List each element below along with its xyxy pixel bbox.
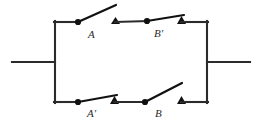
circuit-schematic-svg: A B' A' [0, 0, 264, 124]
switch-B-prime-input-wire [115, 21, 148, 22]
switch-B-prime-lever[interactable] [147, 15, 184, 21]
switch-B-lever[interactable] [145, 83, 182, 102]
switch-A-prime-lever[interactable] [78, 95, 117, 102]
bottom-branch-group: A' B [54, 83, 208, 119]
switch-B[interactable]: B [142, 83, 208, 119]
switch-A-prime[interactable]: A' [54, 95, 146, 119]
rail-group [55, 21, 207, 103]
switch-A-label: A [87, 28, 95, 40]
switch-B-prime[interactable]: B' [111, 15, 208, 39]
top-branch-group: A B' [54, 5, 208, 40]
switch-B-prime-label: B' [154, 27, 164, 39]
switch-A-lever[interactable] [78, 5, 116, 22]
switch-A-prime-label: A' [86, 107, 97, 119]
switch-B-label: B [155, 107, 162, 119]
switch-A-pivot-dot [75, 19, 81, 25]
circuit-diagram-root: A B' A' [0, 0, 264, 124]
switch-A[interactable]: A [54, 5, 116, 40]
